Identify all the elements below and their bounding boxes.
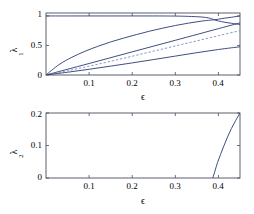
top-ytick-label-0: 0 xyxy=(38,70,43,80)
plot-box xyxy=(46,13,240,75)
top-panel: λ 1 1 0.5 0 0.1 0.2 0.3 0.4 ϵ xyxy=(0,0,254,108)
bottom-xtick-label-0.2: 0.2 xyxy=(126,181,137,191)
bottom-ytick-label-0: 0 xyxy=(38,172,43,182)
top-xtick-label-0.1: 0.1 xyxy=(83,78,94,88)
top-ylabel-subscript: 1 xyxy=(17,52,24,55)
top-ytick-label-1: 1 xyxy=(38,9,43,19)
top-xlabel: ϵ xyxy=(141,91,145,102)
bottom-ylabel: λ 2 xyxy=(8,149,24,157)
bottom-axes: λ 2 0.2 0.1 0 0.1 0.2 0.3 0.4 ϵ xyxy=(0,108,254,214)
bottom-plot-area xyxy=(46,113,240,178)
bottom-xtick-label-0.1: 0.1 xyxy=(83,181,94,191)
top-plot-area xyxy=(46,13,240,75)
top-ylabel-text: λ xyxy=(8,47,19,52)
bottom-ytick-label-0.1: 0.1 xyxy=(31,140,42,150)
bottom-ylabel-text: λ xyxy=(8,149,19,154)
top-ylabel: λ 1 xyxy=(8,47,24,55)
top-xtick-label-0.3: 0.3 xyxy=(169,78,181,88)
figure-canvas: λ 1 1 0.5 0 0.1 0.2 0.3 0.4 ϵ λ 2 0.2 xyxy=(0,0,254,214)
bottom-xlabel: ϵ xyxy=(141,195,145,206)
top-axes: λ 1 1 0.5 0 0.1 0.2 0.3 0.4 ϵ xyxy=(0,0,254,108)
top-xtick-label-0.4: 0.4 xyxy=(212,78,224,88)
plot-box xyxy=(46,113,240,178)
bottom-xtick-label-0.4: 0.4 xyxy=(212,181,224,191)
bottom-panel: λ 2 0.2 0.1 0 0.1 0.2 0.3 0.4 ϵ xyxy=(0,108,254,214)
bottom-ylabel-subscript: 2 xyxy=(17,154,24,157)
bottom-xtick-label-0.3: 0.3 xyxy=(169,181,181,191)
bottom-ytick-label-0.2: 0.2 xyxy=(31,109,42,119)
top-xtick-label-0.2: 0.2 xyxy=(126,78,137,88)
top-ytick-label-0.5: 0.5 xyxy=(31,40,43,50)
